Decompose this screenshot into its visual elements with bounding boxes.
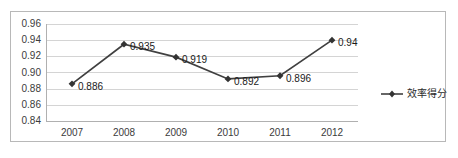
y-axis-tick-label: 0.88 [22,84,41,94]
x-axis-tick-label: 2007 [61,128,83,138]
x-axis-tick-label: 2012 [321,128,343,138]
data-point-label: 0.935 [130,42,155,52]
y-axis-tick-label: 0.84 [22,116,41,126]
legend-entry-label: 效率得分 [407,89,447,99]
x-axis-tick-label: 2009 [165,128,187,138]
x-axis-tick-label: 2011 [269,128,291,138]
plot-area: 0.960.940.920.900.880.860.84 20072008200… [46,24,358,121]
chart-legend: 效率得分 [381,83,457,105]
y-axis-tick-label: 0.94 [22,35,41,45]
x-axis-tick-label: 2010 [217,128,239,138]
x-axis-tick-label: 2008 [113,128,135,138]
y-axis-tick-label: 0.92 [22,51,41,61]
data-point-label: 0.896 [286,74,311,84]
y-axis-tick-label: 0.86 [22,100,41,110]
gridline [46,121,358,122]
line-diamond-marker [381,89,403,99]
y-axis-tick-label: 0.90 [22,68,41,78]
data-point-label: 0.892 [234,77,259,87]
data-point-label: 0.886 [78,82,103,92]
data-point-label: 0.919 [182,55,207,65]
line-series [46,24,358,121]
data-point-marker [173,54,180,61]
data-point-label: 0.94 [338,38,357,48]
data-point-marker [225,76,232,83]
chart-frame: 0.960.940.920.900.880.860.84 20072008200… [10,11,446,142]
y-axis-tick-label: 0.96 [22,19,41,29]
